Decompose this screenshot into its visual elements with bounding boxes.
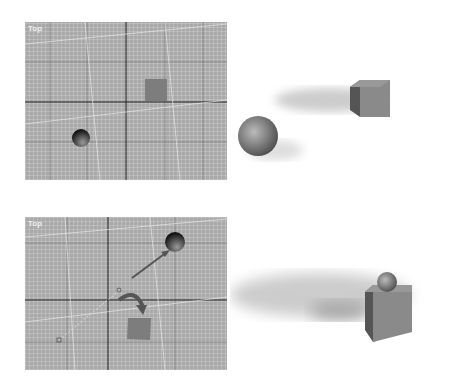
top-viewport-2[interactable]: Top xyxy=(25,217,227,370)
box-object xyxy=(127,318,151,340)
render-1 xyxy=(230,60,455,190)
move-path xyxy=(59,290,120,340)
viewport-grid xyxy=(25,22,227,180)
box-object xyxy=(145,79,167,101)
sphere-object xyxy=(165,232,185,252)
move-arrow xyxy=(132,252,167,278)
top-viewport-1[interactable]: Top xyxy=(25,22,227,180)
viewport-grid xyxy=(25,217,227,370)
render-2 xyxy=(230,250,455,380)
sphere-object xyxy=(72,129,90,147)
